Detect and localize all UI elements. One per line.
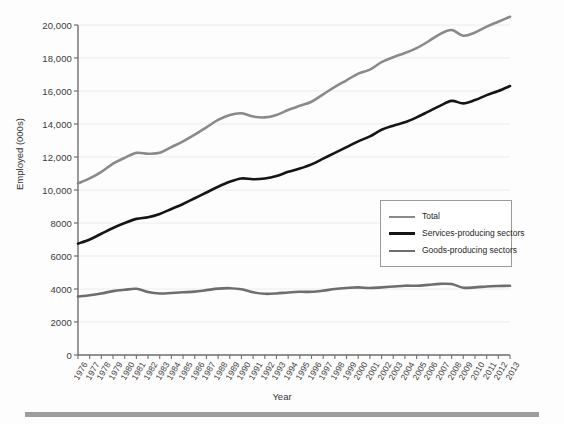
y-tick-label: 0 (67, 350, 72, 361)
footer-rule (25, 412, 539, 417)
y-tick-label: 20,000 (42, 20, 72, 31)
series-line (78, 284, 510, 297)
y-tick-label: 4000 (50, 284, 72, 295)
legend-swatch-line-icon (389, 250, 415, 252)
y-tick-label: 12,000 (42, 152, 72, 163)
y-tick-label: 10,000 (42, 185, 72, 196)
chart-legend: TotalServices-producing sectorsGoods-pro… (380, 200, 512, 267)
legend-item[interactable]: Services-producing sectors (389, 225, 504, 242)
y-tick-label: 16,000 (42, 86, 72, 97)
chart-page: 0200040006000800010,00012,00014,00016,00… (0, 0, 564, 424)
y-tick-label: 14,000 (42, 119, 72, 130)
legend-item[interactable]: Goods-producing sectors (389, 242, 504, 259)
legend-item[interactable]: Total (389, 208, 504, 225)
gridlines (78, 25, 510, 355)
legend-label: Services-producing sectors (422, 229, 525, 238)
legend-swatch-line-icon (389, 216, 415, 218)
y-tick-label: 18,000 (42, 53, 72, 64)
series-line (78, 17, 510, 184)
y-axis-title: Employed (000s) (14, 118, 25, 190)
x-axis-title: Year (0, 391, 564, 402)
y-tick-label: 6000 (50, 251, 72, 262)
y-tick-label: 2000 (50, 317, 72, 328)
y-tick-label: 8000 (50, 218, 72, 229)
legend-label: Total (422, 212, 440, 221)
legend-swatch-line-icon (389, 232, 415, 235)
legend-label: Goods-producing sectors (422, 246, 517, 255)
